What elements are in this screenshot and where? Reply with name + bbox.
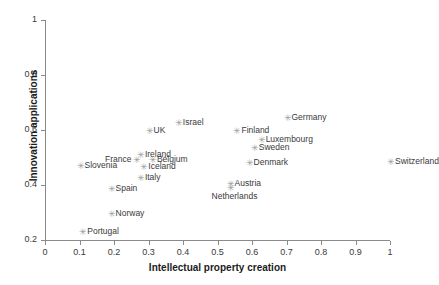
x-tick — [390, 241, 391, 245]
data-point-label: Italy — [145, 172, 161, 182]
data-point-label: Netherlands — [212, 191, 258, 201]
plot-area — [45, 20, 390, 240]
y-tick — [41, 20, 45, 21]
data-point-label: Austria — [235, 178, 261, 188]
data-point-marker-icon: ✳ — [175, 119, 181, 127]
data-point-marker-icon: ✳ — [140, 163, 146, 171]
data-point-label: Portugal — [87, 226, 119, 236]
data-point-label: Switzerland — [395, 156, 439, 166]
y-tick — [41, 185, 45, 186]
y-tick — [41, 240, 45, 241]
data-point-label: Iceland — [148, 161, 175, 171]
x-tick — [252, 241, 253, 245]
data-point-label: Denmark — [254, 157, 288, 167]
x-tick — [80, 241, 81, 245]
data-point-marker-icon: ✳ — [246, 159, 252, 167]
data-point-label: Sweden — [259, 142, 290, 152]
x-tick — [321, 241, 322, 245]
y-axis-line — [45, 20, 46, 240]
x-tick-label: 0.6 — [237, 247, 267, 257]
y-tick-label: 0.2 — [5, 234, 37, 244]
data-point-label: Spain — [116, 183, 138, 193]
x-tick — [287, 241, 288, 245]
y-tick — [41, 130, 45, 131]
x-axis-title: Intellectual property creation — [45, 262, 390, 273]
x-tick-label: 0.5 — [203, 247, 233, 257]
data-point-marker-icon: ✳ — [387, 158, 393, 166]
x-tick — [183, 241, 184, 245]
y-axis-title: Innovation applications — [28, 26, 39, 226]
x-tick-label: 0.4 — [168, 247, 198, 257]
data-point-marker-icon: ✳ — [251, 144, 257, 152]
data-point-label: UK — [154, 125, 166, 135]
x-tick-label: 0.9 — [341, 247, 371, 257]
y-tick — [41, 75, 45, 76]
x-tick-label: 1 — [375, 247, 405, 257]
x-tick-label: 0.1 — [65, 247, 95, 257]
data-point-marker-icon: ✳ — [79, 228, 85, 236]
data-point-marker-icon: ✳ — [108, 185, 114, 193]
x-tick-label: 0 — [30, 247, 60, 257]
data-point-label: Germany — [292, 112, 327, 122]
x-tick — [45, 241, 46, 245]
data-point-label: Norway — [116, 208, 145, 218]
x-tick — [149, 241, 150, 245]
data-point-marker-icon: ✳ — [77, 162, 83, 170]
data-point-marker-icon: ✳ — [233, 127, 239, 135]
x-tick-label: 0.7 — [272, 247, 302, 257]
x-tick — [114, 241, 115, 245]
data-point-label: Israel — [183, 117, 204, 127]
x-tick-label: 0.3 — [134, 247, 164, 257]
data-point-marker-icon: ✳ — [108, 210, 114, 218]
x-tick — [218, 241, 219, 245]
data-point-marker-icon: ✳ — [133, 156, 139, 164]
y-tick-label: 1 — [5, 14, 37, 24]
data-point-marker-icon: ✳ — [284, 114, 290, 122]
data-point-marker-icon: ✳ — [137, 174, 143, 182]
data-point-marker-icon: ✳ — [146, 127, 152, 135]
x-tick-label: 0.2 — [99, 247, 129, 257]
x-tick — [356, 241, 357, 245]
x-tick-label: 0.8 — [306, 247, 336, 257]
data-point-label: Slovenia — [85, 160, 118, 170]
